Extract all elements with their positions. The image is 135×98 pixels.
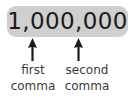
second-comma-label-line2: comma [56, 78, 118, 94]
up-arrow-icon [27, 38, 38, 61]
second-comma-label-line1: second [56, 62, 118, 78]
first-comma-label: first comma [7, 62, 59, 94]
comma-place-value-figure: 1,000,000 first comma second comma [0, 0, 135, 98]
first-comma-label-line1: first [7, 62, 59, 78]
up-arrow-icon [73, 38, 84, 61]
second-comma-label: second comma [56, 62, 118, 94]
number-value: 1,000,000 [7, 6, 128, 37]
first-comma-label-line2: comma [7, 78, 59, 94]
number-highlight-pill: 1,000,000 [7, 6, 128, 37]
